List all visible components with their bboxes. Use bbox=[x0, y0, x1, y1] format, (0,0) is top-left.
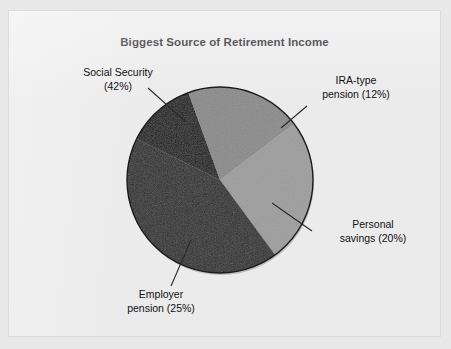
pie-slices bbox=[127, 87, 313, 273]
pie-label-personal-savings-line1: Personal bbox=[310, 218, 436, 232]
pie-label-ira-pension-line1: IRA-type bbox=[296, 74, 416, 88]
pie-label-social-security-line2: (42%) bbox=[58, 80, 178, 94]
pie-label-social-security: Social Security (42%) bbox=[58, 66, 178, 93]
pie-label-employer-pension-line2: pension (25%) bbox=[96, 302, 226, 316]
pie-label-employer-pension: Employer pension (25%) bbox=[96, 288, 226, 315]
pie-label-personal-savings-line2: savings (20%) bbox=[310, 232, 436, 246]
pie-label-employer-pension-line1: Employer bbox=[96, 288, 226, 302]
pie-label-personal-savings: Personal savings (20%) bbox=[310, 218, 436, 245]
pie-label-ira-pension-line2: pension (12%) bbox=[296, 88, 416, 102]
pie-label-social-security-line1: Social Security bbox=[58, 66, 178, 80]
pie-label-ira-pension: IRA-type pension (12%) bbox=[296, 74, 416, 101]
